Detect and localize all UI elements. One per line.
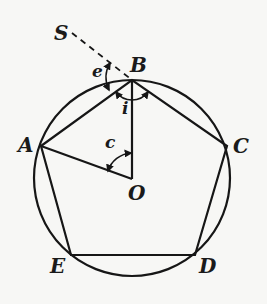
- label-b: B: [129, 53, 147, 77]
- angle-arc-c: [108, 153, 131, 171]
- label-e-vertex: E: [49, 254, 66, 278]
- label-angle-i: i: [122, 98, 128, 118]
- label-o: O: [128, 181, 146, 205]
- angle-arc-e: [106, 63, 110, 90]
- label-a: A: [16, 133, 34, 157]
- pentagon-diagram: S B A C O E D e i c: [0, 0, 267, 304]
- radius-oa: [41, 146, 132, 179]
- label-s: S: [54, 21, 68, 45]
- label-angle-e: e: [92, 61, 103, 81]
- label-angle-c: c: [105, 132, 116, 152]
- label-d: D: [198, 254, 217, 278]
- label-c-vertex: C: [233, 134, 249, 158]
